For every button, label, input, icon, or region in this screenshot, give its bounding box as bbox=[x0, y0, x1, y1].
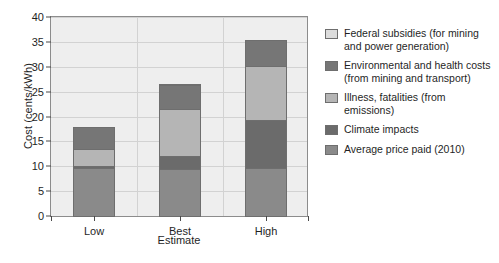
legend-swatch-icon bbox=[325, 61, 338, 71]
y-tick-label: 30 bbox=[32, 61, 51, 73]
plot-area: 0510152025303540LowBestHigh bbox=[50, 16, 308, 217]
y-axis-title: Cost (cents/kWh) bbox=[22, 31, 34, 181]
y-tick-label: 5 bbox=[38, 185, 51, 197]
bar-segment bbox=[159, 109, 201, 158]
legend-label: Federal subsidies (for mining and power … bbox=[344, 27, 497, 52]
bar-segment bbox=[245, 66, 287, 121]
bar-segment bbox=[245, 120, 287, 169]
legend-item[interactable]: Environmental and health costs (from min… bbox=[325, 59, 497, 84]
bar-segment bbox=[73, 127, 115, 151]
x-tick-mark bbox=[51, 216, 52, 221]
y-tick-label: 40 bbox=[32, 11, 51, 23]
y-tick-label: 0 bbox=[38, 210, 51, 222]
bar-high bbox=[245, 40, 287, 216]
stacked-bar-chart: Cost (cents/kWh) 0510152025303540LowBest… bbox=[0, 0, 499, 263]
bar-segment bbox=[73, 168, 115, 217]
y-tick-label: 35 bbox=[32, 36, 51, 48]
y-gridline bbox=[51, 17, 307, 18]
y-tick-label: 15 bbox=[32, 135, 51, 147]
y-tick-label: 10 bbox=[32, 160, 51, 172]
legend-swatch-icon bbox=[325, 93, 338, 103]
legend-label: Environmental and health costs (from min… bbox=[344, 59, 497, 84]
y-tick-label: 25 bbox=[32, 86, 51, 98]
legend-item[interactable]: Climate impacts bbox=[325, 123, 497, 136]
bar-segment bbox=[245, 40, 287, 67]
bar-segment bbox=[245, 168, 287, 217]
bar-low bbox=[73, 127, 115, 217]
x-tick-mark bbox=[180, 216, 181, 221]
legend-item[interactable]: Illness, fatalities (from emissions) bbox=[325, 91, 497, 116]
bar-segment bbox=[159, 85, 201, 109]
legend-label: Average price paid (2010) bbox=[344, 143, 465, 156]
bar-segment bbox=[73, 149, 115, 166]
x-tick-mark bbox=[266, 216, 267, 221]
legend-item[interactable]: Federal subsidies (for mining and power … bbox=[325, 27, 497, 52]
chart-legend: Federal subsidies (for mining and power … bbox=[325, 27, 497, 162]
legend-label: Climate impacts bbox=[344, 123, 419, 136]
legend-label: Illness, fatalities (from emissions) bbox=[344, 91, 497, 116]
y-tick-label: 20 bbox=[32, 111, 51, 123]
legend-swatch-icon bbox=[325, 29, 338, 39]
legend-item[interactable]: Average price paid (2010) bbox=[325, 143, 497, 156]
bar-segment bbox=[159, 169, 201, 217]
legend-swatch-icon bbox=[325, 125, 338, 135]
x-gridline bbox=[137, 17, 138, 216]
x-gridline bbox=[223, 17, 224, 216]
bar-segment bbox=[159, 156, 201, 170]
x-tick-mark bbox=[94, 216, 95, 221]
x-axis-title: Estimate bbox=[50, 234, 308, 246]
bar-best bbox=[159, 84, 201, 216]
legend-swatch-icon bbox=[325, 145, 338, 155]
x-tick-mark bbox=[308, 216, 309, 221]
